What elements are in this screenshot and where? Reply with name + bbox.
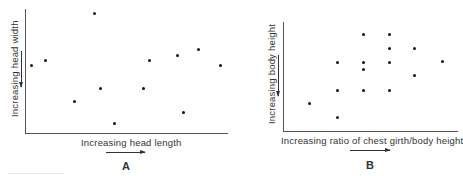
- data-point: [413, 74, 416, 77]
- data-point: [388, 33, 391, 36]
- data-point: [362, 89, 365, 92]
- x-axis-b: [283, 131, 458, 132]
- x-axis-label-b: Increasing ratio of chest girth/body hei…: [281, 135, 463, 146]
- data-point: [388, 89, 391, 92]
- data-point: [336, 61, 339, 64]
- data-point: [441, 60, 444, 63]
- y-arrow-b: [278, 55, 279, 96]
- data-point: [388, 47, 391, 50]
- data-point: [362, 68, 365, 71]
- data-point: [362, 33, 365, 36]
- data-point: [308, 102, 311, 105]
- data-point: [336, 116, 339, 119]
- data-point: [362, 61, 365, 64]
- x-arrow-b: [350, 150, 390, 151]
- data-point: [336, 89, 339, 92]
- y-axis-label-b: Increasing body height: [266, 24, 277, 124]
- panel-label-b: B: [366, 159, 374, 171]
- data-point: [388, 61, 391, 64]
- data-point: [413, 47, 416, 50]
- plot-area-b: [283, 22, 456, 131]
